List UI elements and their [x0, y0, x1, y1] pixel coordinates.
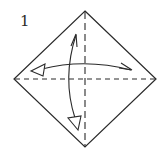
horizontal-fold-unfold-arrow: [31, 63, 132, 76]
vertical-fold-unfold-arrow: [68, 34, 81, 130]
open-arrowhead-right-icon: [119, 63, 132, 70]
origami-diagram-step: 1: [0, 0, 166, 163]
vertical-arrow-arc: [69, 35, 76, 118]
hollow-arrowhead-bottom-icon: [68, 116, 81, 130]
hollow-arrowhead-left-icon: [31, 64, 45, 76]
diagram-drawing: [0, 0, 166, 163]
horizontal-arrow-arc: [42, 64, 131, 70]
